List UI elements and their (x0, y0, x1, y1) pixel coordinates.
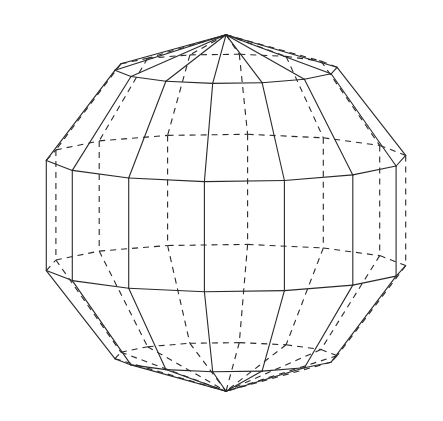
hidden-edge (337, 266, 406, 356)
visible-edge (353, 276, 396, 285)
visible-edge (46, 271, 115, 359)
visible-edge (131, 35, 226, 77)
hidden-edge (190, 343, 239, 344)
visible-edge (262, 83, 284, 181)
visible-edge (284, 285, 352, 291)
hidden-edge (168, 55, 190, 135)
hidden-edge (115, 352, 121, 359)
wireframe-sphere (0, 0, 443, 421)
visible-edge (72, 77, 131, 171)
hidden-edge (168, 246, 190, 344)
visible-edge (213, 35, 226, 84)
visible-edge (204, 181, 284, 182)
hidden-edge (168, 134, 248, 135)
hidden-edge (248, 244, 324, 248)
visible-edge (72, 170, 128, 178)
visible-edge (131, 77, 166, 82)
visible-edge (262, 291, 284, 372)
visible-edge (337, 67, 406, 155)
visible-edge (226, 35, 337, 68)
visible-edge (226, 35, 304, 80)
hidden-edge (323, 138, 379, 146)
visible-edge (284, 175, 352, 181)
hidden-edge (321, 256, 380, 350)
visible-edge (131, 365, 226, 391)
visible-edge (353, 166, 396, 175)
hidden-edge (226, 343, 239, 392)
visible-edge (396, 266, 406, 277)
hidden-edge (239, 343, 286, 345)
hidden-edge (168, 244, 248, 245)
hidden-edge (46, 260, 56, 271)
visible-edge (129, 288, 205, 292)
visible-edge (396, 155, 406, 166)
visible-edge (262, 79, 304, 82)
visible-edge (304, 285, 352, 368)
visible-edge (115, 70, 131, 76)
visible-edge (213, 371, 262, 372)
visible-edges (46, 35, 405, 391)
visible-edge (204, 292, 212, 372)
visible-edge (129, 81, 166, 178)
visible-edge (46, 70, 115, 160)
hidden-edge (286, 248, 323, 345)
visible-edge (115, 35, 226, 71)
visible-edge (166, 370, 226, 392)
visible-edge (166, 81, 213, 83)
visible-edge (204, 83, 212, 181)
hidden-edge (99, 135, 167, 141)
hidden-edge (248, 134, 324, 138)
hidden-edges (46, 35, 405, 391)
hidden-edge (239, 244, 247, 342)
visible-edge (204, 291, 284, 292)
visible-edge (121, 35, 226, 64)
hidden-edge (190, 54, 239, 55)
hidden-edge (239, 54, 247, 134)
hidden-edge (226, 345, 286, 391)
hidden-edge (56, 251, 99, 260)
visible-edge (331, 67, 337, 74)
visible-edge (304, 74, 331, 80)
hidden-edge (99, 246, 167, 252)
visible-edge (46, 160, 72, 170)
hidden-edge (56, 64, 121, 150)
visible-edge (72, 281, 128, 289)
hidden-edge (380, 256, 406, 266)
hidden-edge (323, 248, 379, 256)
hidden-edge (321, 350, 337, 356)
visible-edge (331, 276, 396, 362)
visible-edge (213, 83, 262, 84)
hidden-edge (56, 141, 99, 150)
visible-edge (166, 35, 226, 81)
hidden-edge (121, 347, 148, 353)
visible-edge (129, 178, 205, 182)
hidden-edge (99, 58, 147, 141)
visible-edge (226, 371, 262, 391)
visible-edge (72, 281, 131, 365)
visible-edge (304, 362, 331, 368)
